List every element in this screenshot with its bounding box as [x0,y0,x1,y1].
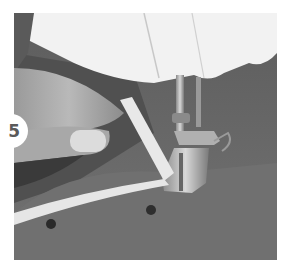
pin-head [46,219,56,229]
needle-bar [176,75,184,135]
pin-head [146,205,156,215]
sewing-photo [14,13,277,260]
step-number: 5 [8,123,20,140]
fingernail [70,130,106,152]
photo-illustration [14,13,277,260]
